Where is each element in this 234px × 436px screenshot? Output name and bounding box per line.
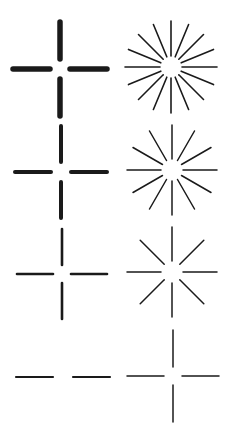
- starburst-column: [125, 21, 219, 422]
- starburst-ray: [182, 176, 212, 193]
- star-4-figure: [127, 330, 219, 422]
- starburst-ray: [150, 180, 167, 210]
- diagram-canvas: [0, 0, 234, 436]
- cross-column: [13, 22, 110, 377]
- starburst-ray: [133, 148, 163, 165]
- star-3-figure: [127, 227, 217, 317]
- cross-3-figure: [17, 229, 107, 319]
- star-2-figure: [127, 125, 217, 215]
- starburst-ray: [140, 280, 164, 304]
- cross-1-figure: [13, 22, 107, 116]
- starburst-ray: [133, 176, 163, 193]
- starburst-ray: [180, 280, 204, 304]
- starburst-ray: [182, 148, 212, 165]
- starburst-ray: [150, 131, 167, 161]
- starburst-ray: [178, 131, 195, 161]
- star-1-figure: [125, 21, 217, 113]
- cross-2-figure: [15, 126, 107, 218]
- starburst-ray: [178, 180, 195, 210]
- starburst-ray: [180, 240, 204, 264]
- starburst-ray: [140, 240, 164, 264]
